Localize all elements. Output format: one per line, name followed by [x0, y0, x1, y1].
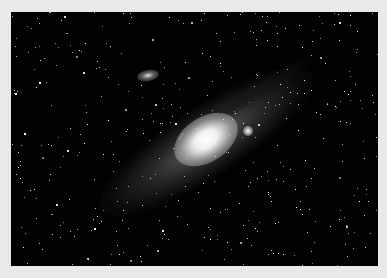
star [147, 245, 148, 246]
star [74, 236, 75, 237]
star [279, 12, 280, 13]
star [339, 177, 341, 179]
star [58, 47, 59, 48]
star [157, 250, 159, 252]
star [87, 259, 88, 260]
star [203, 183, 204, 184]
star [91, 230, 92, 231]
star [185, 62, 186, 63]
star [349, 71, 350, 72]
star [350, 76, 351, 77]
star [49, 180, 50, 181]
star [359, 201, 360, 202]
star [344, 91, 345, 92]
star [305, 160, 306, 161]
star [51, 214, 52, 215]
star [342, 161, 343, 162]
star [344, 217, 345, 218]
star [354, 232, 355, 233]
star [250, 31, 251, 32]
star [219, 117, 220, 118]
star [287, 69, 288, 70]
star [122, 220, 123, 221]
star [15, 46, 16, 47]
star [276, 179, 277, 180]
star [270, 196, 271, 197]
star [253, 32, 254, 33]
star [51, 105, 52, 106]
star [234, 32, 235, 33]
star [173, 148, 174, 149]
star [235, 113, 236, 114]
star [163, 84, 164, 85]
star [242, 12, 243, 13]
star [296, 207, 297, 208]
star [357, 188, 358, 189]
star [16, 174, 17, 175]
star [16, 56, 17, 57]
star [273, 253, 274, 254]
star [245, 134, 246, 135]
star [36, 87, 37, 88]
star [259, 222, 260, 223]
star [131, 17, 132, 18]
star [311, 90, 312, 91]
star [311, 55, 312, 56]
star [171, 194, 172, 195]
star [162, 98, 163, 99]
star [149, 140, 150, 141]
star [275, 223, 276, 224]
star [257, 75, 258, 76]
star [27, 26, 28, 27]
star [279, 104, 280, 105]
star [325, 63, 326, 64]
star [334, 24, 335, 25]
star [35, 47, 36, 48]
star [67, 150, 69, 152]
star [268, 102, 269, 103]
star [366, 189, 367, 190]
star [350, 100, 351, 101]
star [36, 218, 37, 219]
star [376, 210, 377, 211]
star [254, 86, 255, 87]
star [182, 134, 183, 135]
star [187, 159, 188, 160]
star [198, 192, 199, 193]
star [217, 125, 218, 126]
star [58, 137, 59, 138]
star [63, 222, 64, 223]
star [77, 229, 78, 230]
star [267, 40, 268, 41]
star [210, 208, 211, 209]
star [17, 91, 18, 92]
star [372, 13, 373, 14]
star [376, 137, 377, 138]
star [255, 13, 256, 14]
star [44, 58, 45, 59]
star [350, 91, 351, 92]
star [302, 265, 303, 266]
star [309, 209, 310, 210]
star [350, 25, 351, 26]
star [141, 85, 142, 86]
star [165, 206, 166, 207]
star [142, 97, 143, 98]
star [160, 123, 161, 124]
star [80, 134, 81, 135]
star [227, 209, 228, 210]
star [129, 23, 130, 24]
star [113, 154, 114, 155]
star [313, 30, 314, 31]
star [178, 20, 179, 21]
star [72, 264, 73, 265]
star [39, 46, 40, 47]
star [164, 234, 165, 235]
star [363, 141, 364, 142]
star [347, 256, 348, 257]
star [76, 56, 78, 58]
companion-galaxy [136, 68, 160, 83]
star [204, 237, 205, 238]
star [267, 16, 268, 17]
star [169, 17, 170, 18]
